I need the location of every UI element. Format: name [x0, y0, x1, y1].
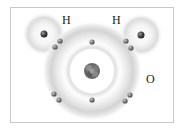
- hydrogen-left-nucleus-icon: [41, 31, 48, 38]
- hydrogen-right-label: H: [112, 14, 121, 26]
- oxygen-nucleus-icon: [84, 63, 100, 79]
- hydrogen-left-label: H: [62, 14, 71, 26]
- water-molecule-diagram: [0, 0, 181, 133]
- hydrogen-right-nucleus-icon: [138, 32, 145, 39]
- oxygen-label: O: [146, 73, 155, 85]
